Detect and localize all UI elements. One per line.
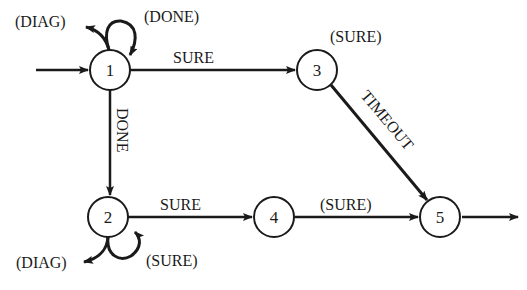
node-5-label: 5: [436, 208, 445, 227]
edge-label-1-to-3: SURE: [173, 49, 214, 66]
node-1-label: 1: [106, 61, 115, 80]
edge-label-4-to-5: (SURE): [320, 196, 372, 214]
edge-1-diag: [86, 27, 109, 50]
edge-label-1-to-2: DONE: [114, 108, 131, 152]
node-3-label: 3: [313, 61, 322, 80]
node-5: 5: [420, 197, 460, 237]
node-2-label: 2: [104, 208, 113, 227]
edge-label-2-self: (SURE): [146, 252, 198, 270]
state-diagram: SURE DONE (DONE) (DIAG) (SURE) TIMEOUT S…: [0, 0, 527, 290]
node-4-label: 4: [270, 208, 279, 227]
edge-label-2-diag: (DIAG): [16, 254, 67, 272]
node-3: 3: [297, 50, 337, 90]
edge-label-1-diag: (DIAG): [15, 13, 66, 31]
edge-label-2-to-4: SURE: [160, 196, 201, 213]
edge-label-1-self: (DONE): [144, 8, 199, 26]
node-2: 2: [88, 197, 128, 237]
node-1: 1: [90, 50, 130, 90]
node-4: 4: [254, 197, 294, 237]
edge-label-3-self: (SURE): [330, 28, 382, 46]
edge-2-diag: [84, 237, 108, 262]
edge-label-3-to-5: TIMEOUT: [358, 87, 417, 153]
